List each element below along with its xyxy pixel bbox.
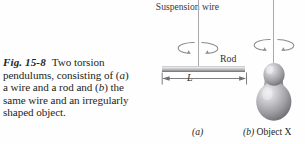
figure-caption: Fig. 15-8Two torsion pendulums, consisti… [3,56,136,119]
figure-container: Fig. 15-8Two torsion pendulums, consisti… [0,0,305,144]
rotation-arrow-icon-a [174,37,222,63]
rod-label: Rod [220,53,236,64]
panel-b-label: (b) Object X [243,126,292,137]
panel-a-label: (a) [192,126,203,137]
length-dimension-line [160,72,250,90]
object-x-label: Object X [257,126,292,137]
suspension-wire-label: Suspension wire [140,1,219,12]
length-label: L [187,72,193,83]
panel-b-marker: (b) [243,126,254,137]
rotation-arrow-icon-b [250,34,298,60]
object-x-shape [253,58,295,122]
diagram-area: Suspension wire [140,0,305,144]
figure-number: Fig. 15-8 [3,56,46,68]
